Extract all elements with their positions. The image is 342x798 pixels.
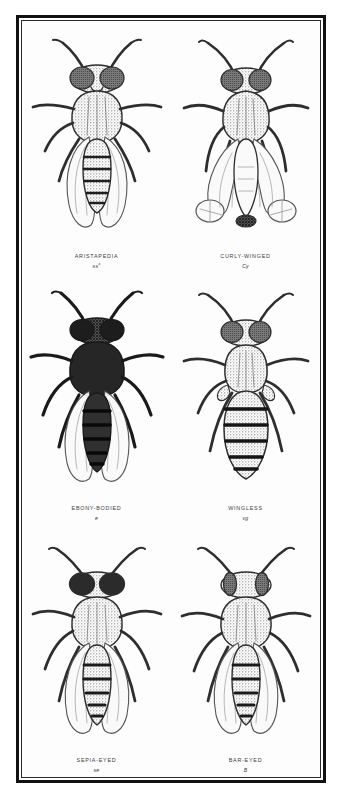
specimen-row-1: ARISTAPEDIA ssa [22, 21, 320, 273]
specimen-cell-ebony-bodied: EBONY-BODIED e [22, 273, 171, 525]
bar-eyed-illustration [171, 525, 320, 758]
specimen-symbol: se [77, 767, 117, 773]
specimen-symbol: B [229, 767, 263, 773]
specimen-cell-aristapedia: ARISTAPEDIA ssa [22, 21, 171, 273]
specimen-row-2: EBONY-BODIED e [22, 273, 320, 525]
specimen-cell-sepia-eyed: SEPIA-EYED se [22, 525, 171, 777]
bar-eyed-caption: BAR-EYED B [229, 758, 263, 777]
specimen-symbol: ssa [75, 263, 119, 269]
specimen-cell-bar-eyed: BAR-EYED B [171, 525, 320, 777]
specimen-name: EBONY-BODIED [72, 506, 122, 512]
specimen-name: BAR-EYED [229, 758, 263, 764]
specimen-symbol: e [72, 515, 122, 521]
specimen-cell-curly-winged: CURLY-WINGED Cy [171, 21, 320, 273]
wingless-illustration [171, 273, 320, 506]
specimen-row-3: SEPIA-EYED se [22, 525, 320, 777]
sepia-eyed-illustration [22, 525, 171, 758]
specimen-symbol: Cy [220, 263, 270, 269]
wingless-caption: WINGLESS vg [228, 506, 262, 525]
aristapedia-illustration [22, 21, 171, 254]
curly-winged-caption: CURLY-WINGED Cy [220, 254, 270, 273]
curly-winged-illustration [171, 21, 320, 254]
specimen-symbol: vg [228, 515, 262, 521]
plate-inner-border: ARISTAPEDIA ssa [21, 20, 321, 778]
figure-plate: ARISTAPEDIA ssa [16, 15, 326, 783]
aristapedia-caption: ARISTAPEDIA ssa [75, 254, 119, 273]
specimen-name: SEPIA-EYED [77, 758, 117, 764]
specimen-name: CURLY-WINGED [220, 254, 270, 260]
sepia-eyed-caption: SEPIA-EYED se [77, 758, 117, 777]
specimen-name: WINGLESS [228, 506, 262, 512]
specimen-cell-wingless: WINGLESS vg [171, 273, 320, 525]
specimen-name: ARISTAPEDIA [75, 254, 119, 260]
ebony-bodied-illustration [22, 273, 171, 506]
ebony-bodied-caption: EBONY-BODIED e [72, 506, 122, 525]
